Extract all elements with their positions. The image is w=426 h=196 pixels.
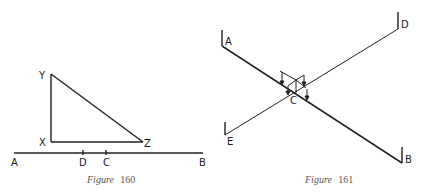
label-c: C — [290, 95, 297, 106]
label-d: D — [401, 19, 409, 30]
figure-161-labels: A D C E B — [225, 19, 412, 165]
diagram-canvas: Y X Z A D C B Figure 160 A D C E — [0, 0, 426, 196]
label-e: E — [227, 136, 233, 147]
label-a: A — [225, 36, 232, 47]
caption-figure-161: Figure 161 — [304, 174, 353, 185]
bracket-upper — [280, 71, 304, 80]
label-a: A — [11, 157, 18, 168]
label-d: D — [79, 157, 87, 168]
line-ab — [222, 46, 402, 163]
arrow-4-head-icon — [305, 96, 309, 100]
label-b: B — [405, 154, 412, 165]
label-b: B — [199, 157, 206, 168]
label-z: Z — [144, 138, 151, 149]
caption-figure-160: Figure 160 — [86, 174, 135, 185]
label-x: X — [39, 137, 46, 148]
figure-161 — [222, 12, 402, 163]
label-y: Y — [38, 70, 46, 81]
line-de — [225, 29, 398, 135]
label-c: C — [103, 157, 110, 168]
segment-yz — [51, 74, 143, 142]
